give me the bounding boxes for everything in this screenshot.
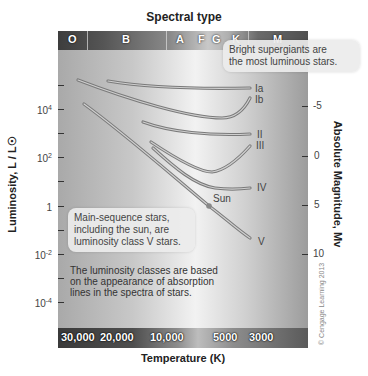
note-line: on the appearance of absorption bbox=[70, 276, 218, 287]
sun-marker bbox=[206, 203, 212, 209]
class-label-ia: Ia bbox=[255, 83, 263, 94]
callout-line: including the sun, are bbox=[74, 224, 189, 236]
class-label-v: V bbox=[258, 236, 265, 247]
luminosity-class-note: The luminosity classes are based on the … bbox=[70, 265, 218, 298]
copyright-text: © Cengage Learning 2013 bbox=[318, 225, 325, 345]
class-label-iv: IV bbox=[257, 182, 266, 193]
callout-line: the most luminous stars. bbox=[229, 56, 354, 68]
main-sequence-callout: Main-sequence stars, including the sun, … bbox=[68, 208, 195, 252]
class-label-ib: Ib bbox=[255, 94, 263, 105]
class-label-iii: III bbox=[256, 140, 264, 151]
callout-line: Bright supergiants are bbox=[229, 44, 354, 56]
class-label-ii: II bbox=[257, 129, 263, 140]
sun-label: Sun bbox=[213, 193, 231, 204]
note-line: lines in the spectra of stars. bbox=[70, 287, 218, 298]
callout-line: luminosity class V stars. bbox=[74, 236, 189, 248]
note-line: The luminosity classes are based bbox=[70, 265, 218, 276]
callout-line: Main-sequence stars, bbox=[74, 212, 189, 224]
supergiants-callout: Bright supergiants are the most luminous… bbox=[223, 40, 360, 72]
